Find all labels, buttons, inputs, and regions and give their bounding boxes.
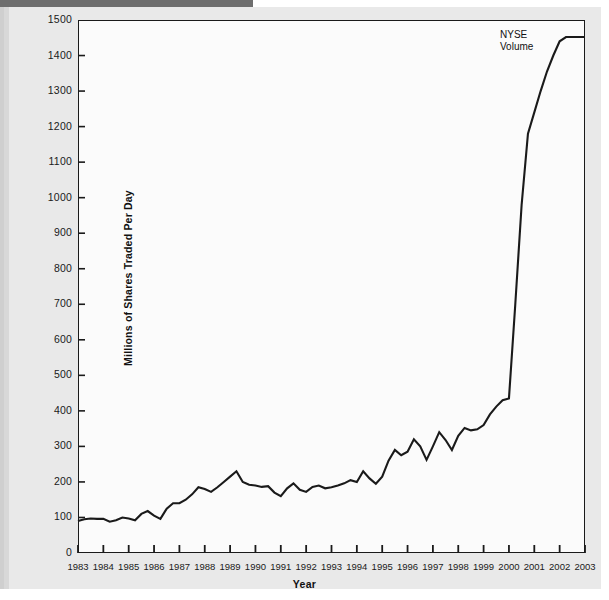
- y-axis-title: Millions of Shares Traded Per Day: [122, 168, 134, 388]
- series-annotation-nyse-volume: NYSE Volume: [500, 29, 533, 53]
- y-tick-label: 400: [54, 404, 72, 416]
- y-tick-label: 900: [54, 226, 72, 238]
- x-axis-tick-labels: 1983198419851986198719881989199019911992…: [0, 561, 609, 577]
- y-axis-title-wrapper: Millions of Shares Traded Per Day: [96, 0, 97, 1]
- y-tick-label: 800: [54, 262, 72, 274]
- y-tick-label: 1100: [49, 155, 72, 167]
- scan-artifact-left-edge: [0, 7, 4, 589]
- y-tick-label: 500: [54, 368, 72, 380]
- y-tick-label: 1200: [48, 120, 72, 132]
- y-tick-label: 1300: [48, 84, 72, 96]
- y-axis-tick-labels: 0100200300400500600700800900100011001200…: [22, 0, 72, 600]
- chart-page: 0100200300400500600700800900100011001200…: [0, 0, 609, 600]
- x-tick-label: 2003: [565, 561, 605, 572]
- y-tick-label: 0: [66, 546, 72, 558]
- y-tick-label: 1400: [48, 49, 72, 61]
- y-tick-label: 300: [54, 439, 72, 451]
- x-axis-title: Year: [0, 578, 609, 590]
- y-tick-label: 100: [54, 510, 72, 522]
- y-tick-label: 700: [54, 297, 72, 309]
- plot-area: [78, 20, 585, 553]
- y-tick-label: 200: [54, 475, 72, 487]
- y-tick-label: 600: [54, 333, 72, 345]
- y-tick-label: 1500: [48, 13, 72, 25]
- y-tick-label: 1000: [48, 191, 72, 203]
